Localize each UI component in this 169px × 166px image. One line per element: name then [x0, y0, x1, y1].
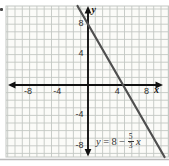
equation-label: y = 8 − 5 3 x [96, 131, 141, 152]
equation-fraction: 5 3 [128, 134, 134, 150]
x-tick-label: -8 [24, 86, 32, 96]
line-graph-figure: -8-44884-4-8 y x y = 8 − 5 3 x [0, 0, 169, 166]
fraction-denominator: 3 [129, 142, 133, 149]
x-tick-label: -4 [53, 86, 61, 96]
equation-lhs: y [96, 136, 101, 147]
y-tick-label: 8 [78, 18, 83, 28]
x-axis-letter: x [153, 84, 159, 95]
equation-variable: x [136, 136, 141, 147]
equation-minus: − [119, 136, 125, 147]
graph-canvas: -8-44884-4-8 y x [0, 0, 169, 166]
equation-constant: 8 [112, 136, 117, 147]
x-tick-label: 8 [144, 86, 149, 96]
y-axis-letter: y [91, 4, 97, 15]
x-tick-label: 4 [115, 86, 120, 96]
equation-equals: = [103, 136, 109, 147]
y-tick-label: -8 [75, 140, 83, 150]
y-tick-label: 4 [78, 48, 83, 58]
y-tick-label: -4 [75, 109, 83, 119]
